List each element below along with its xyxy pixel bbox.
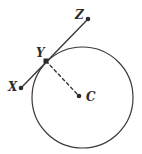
segment-tangent-xz	[21, 19, 88, 88]
point-label-y: Y	[36, 46, 46, 60]
point-label-x: X	[7, 80, 18, 94]
geometry-figure: X Y Z C	[0, 0, 142, 154]
point-label-z: Z	[74, 8, 85, 22]
geometry-canvas: X Y Z C	[0, 0, 142, 154]
point-marker-c	[77, 94, 82, 99]
point-marker-x	[19, 86, 24, 91]
point-marker-z	[86, 17, 91, 22]
point-label-c: C	[86, 90, 96, 104]
segment-radius-yc	[46, 61, 79, 96]
